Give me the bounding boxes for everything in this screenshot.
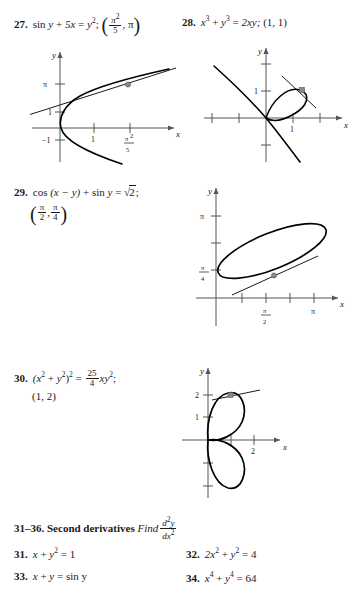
equals-sign: =	[76, 372, 82, 384]
sin-function: sin	[92, 186, 105, 198]
y-axis-arrow	[213, 188, 218, 194]
exercise-29-number: 29.	[14, 186, 28, 198]
x-ticklabel-1: 1	[290, 125, 294, 134]
variable-x: x	[33, 570, 38, 582]
rhs-value: 64	[245, 572, 256, 584]
open-paren: (	[102, 14, 109, 36]
exponent-b: 2	[236, 546, 240, 555]
x-axis-arrow	[336, 115, 342, 120]
fraction-numerator: π2	[109, 13, 121, 26]
cos-argument: (x − y)	[50, 186, 80, 198]
tangent-point-27	[125, 82, 130, 87]
exercise-28-statement: 28.x3 + y3 = 2xy; (1, 1)	[182, 14, 287, 29]
x-ticklabel-frac-num: π	[263, 307, 267, 314]
equals-sign: =	[233, 16, 239, 28]
equals-sign: =	[78, 18, 84, 30]
exercise-28-equation: x3 + y3 = 2xy; (1, 1)	[201, 16, 287, 28]
plus-sign: +	[222, 548, 228, 560]
y-axis-arrow	[263, 48, 268, 54]
x-ticklabel-frac-den: 2	[263, 318, 266, 325]
exercise-31-equation: x + y2 = 1	[33, 548, 75, 560]
y-ticklabel-1: 1	[195, 413, 199, 422]
tangent-point-28	[300, 88, 305, 93]
y-axis-arrow	[57, 52, 62, 58]
sin-function: sin	[33, 18, 46, 30]
x-ticklabel-frac-num: π	[125, 135, 129, 142]
y-ticklabel-1: 1	[254, 87, 258, 96]
exercise-29-point: (π2,π4)	[30, 204, 67, 224]
x-axis-label-29: x	[339, 299, 344, 309]
x-axis-label-27: x	[175, 129, 180, 139]
rhs-value: 4	[251, 548, 257, 560]
x-axis-arrow	[274, 437, 280, 442]
tangent-point-29	[271, 273, 276, 278]
y-axis-label-27: y	[51, 50, 56, 60]
plus-sign: +	[40, 548, 46, 560]
semicolon: ;	[113, 372, 116, 384]
exercise-33-number: 33.	[14, 570, 28, 582]
graph-exercise-29: x y π π 4 π 2 π	[186, 180, 354, 330]
variable-y: y	[49, 570, 54, 582]
plus-sign: +	[216, 572, 222, 584]
plus-sign: +	[212, 16, 218, 28]
plus-sign: +	[56, 18, 62, 30]
exercise-30-point: (1, 2)	[32, 390, 56, 404]
fraction-numerator: d2y	[160, 516, 176, 529]
curve-27	[60, 69, 169, 164]
tangent-point-30	[228, 393, 233, 398]
y-ticklabel-neg1: −1	[42, 136, 51, 145]
x-ticklabel-frac-den: 5	[126, 146, 129, 153]
coefficient-fraction: 254	[86, 369, 99, 389]
exponent-a: 2	[215, 546, 219, 555]
exercise-31-statement: 31.x + y2 = 1	[14, 546, 75, 561]
exercise-34-number: 34.	[186, 572, 200, 584]
x-ticklabel-frac-exp: 2	[130, 132, 133, 139]
exercise-34-statement: 34.x4 + y4 = 64	[186, 570, 256, 585]
variable-x: x	[33, 548, 38, 560]
textbook-page: 27.sin y + 5x = y2; (π25, π) 28.x3 + y3 …	[0, 0, 358, 600]
x-axis-arrow	[332, 295, 338, 300]
semicolon: ;	[96, 18, 99, 30]
section-title: Second derivatives	[47, 522, 135, 534]
exercise-32-number: 32.	[186, 548, 200, 560]
second-derivative-fraction: d2ydx2	[160, 516, 176, 542]
y-ticklabel-pi: π	[200, 212, 204, 221]
y-axis-arrow	[205, 368, 210, 374]
y-ticklabel-pi: π	[43, 80, 47, 89]
exponent-a: 4	[210, 570, 214, 579]
exercise-30-statement: 30.(x2 + y2)2 = 254xy2;	[14, 370, 116, 390]
exponent-outer: 2	[69, 371, 73, 380]
variable-y: y	[108, 186, 113, 198]
fraction-denominator: dx2	[160, 529, 176, 541]
exponent: 2	[54, 546, 58, 555]
y-axis-label-28: y	[257, 46, 262, 56]
exercise-31-number: 31.	[14, 548, 28, 560]
cos-function: cos	[33, 186, 48, 198]
variable-y: y	[48, 18, 53, 30]
fraction-denominator: 2	[38, 213, 47, 222]
equals-sign: =	[57, 570, 63, 582]
y-ticklabel-2: 2	[195, 391, 199, 400]
equals-sign: =	[61, 548, 67, 560]
rhs-value: 1	[70, 548, 76, 560]
term-xy: xy	[100, 372, 110, 384]
tangent-line-30	[212, 390, 260, 400]
close-paren: )	[61, 203, 68, 225]
point-first-fraction: π2	[38, 203, 47, 223]
exercise-33-statement: 33.x + y = sin y	[14, 570, 87, 584]
oval-curve-29	[211, 213, 332, 290]
point-1-1: (1, 1)	[263, 16, 287, 28]
graph-exercise-27: x y π 1 −1 1 π 2 5	[24, 40, 184, 165]
y-axis-label-30: y	[199, 366, 204, 376]
exercise-33-equation: x + y = sin y	[33, 570, 87, 582]
exercise-29-equation: cos (x − y) + sin y = √2;	[33, 186, 139, 198]
term-2x: 2x	[205, 548, 215, 560]
term-5x: 5x	[65, 18, 75, 30]
exercise-29-statement: 29.cos (x − y) + sin y = √2;	[14, 186, 139, 200]
equals-sign: =	[237, 572, 243, 584]
graph-exercise-28: x y 1 1	[196, 40, 352, 165]
plus-sign: +	[40, 570, 46, 582]
plus-sign: +	[83, 186, 89, 198]
point-fraction: π25	[109, 13, 121, 36]
x-axis-arrow	[168, 125, 174, 130]
